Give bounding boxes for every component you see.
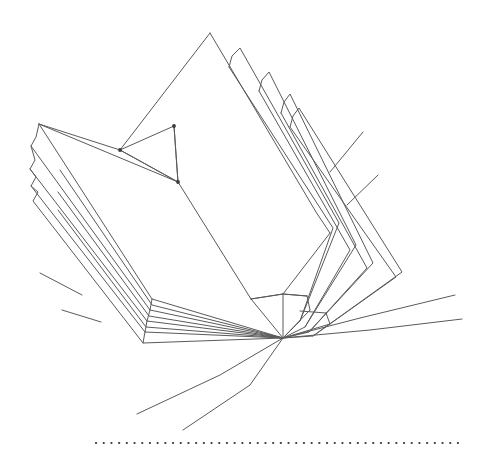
sweep-curve-right-1 — [283, 295, 455, 338]
inner-v-fold-left — [120, 150, 178, 182]
inner-v-fold-riser — [174, 126, 178, 182]
left-edge-tick-marks — [40, 273, 101, 322]
right-page-outline-2 — [259, 91, 350, 327]
left-page-edge-4 — [31, 186, 283, 343]
tick-right-1 — [330, 132, 363, 172]
sweep-curve-left-2 — [183, 338, 283, 430]
right-page-edge-3 — [281, 94, 373, 338]
center-peak-right-edge — [210, 33, 330, 233]
left-page-edge-3 — [30, 169, 283, 338]
vertex-dot-peak-base — [172, 124, 176, 128]
center-page-body-edge — [178, 182, 251, 299]
left-page-inner-line-2 — [58, 192, 283, 338]
center-peak-left-edge — [120, 33, 210, 150]
left-cover-lower-fold — [39, 124, 178, 182]
left-page-flap-2 — [147, 310, 150, 321]
center-standing-page — [118, 33, 330, 338]
center-page-lower-left-edge — [251, 233, 330, 299]
sweep-curve-right-2 — [283, 319, 462, 338]
right-page-outline-3 — [281, 113, 367, 332]
vertex-dot-inner-fold — [118, 148, 122, 152]
right-page-flap-line-4 — [326, 313, 330, 324]
left-page-inner-line-1 — [60, 170, 283, 338]
left-cover-outer-edge — [39, 124, 283, 338]
open-book-line-drawing — [0, 0, 482, 461]
tick-left-1 — [40, 273, 82, 295]
right-page-stack — [229, 48, 402, 338]
left-page-edge-2 — [30, 146, 283, 338]
left-page-flap-4 — [143, 332, 145, 343]
left-page-stack — [30, 124, 283, 343]
tick-right-2 — [347, 175, 378, 205]
inner-v-fold-connector — [120, 126, 174, 150]
sweeping-page-curves — [137, 295, 462, 430]
spine-flap-outline — [251, 294, 307, 299]
sweep-curve-left-1 — [137, 338, 283, 414]
vertex-dot-fold-base — [176, 180, 180, 184]
tick-left-2 — [62, 310, 101, 322]
illustration-canvas — [0, 0, 482, 461]
